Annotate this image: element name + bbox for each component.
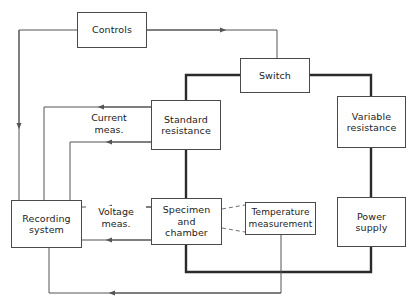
node-switch[interactable]: Switch [240,58,310,93]
node-controls-label: Controls [92,24,132,36]
node-controls[interactable]: Controls [77,12,147,48]
wire-specimen-to-temperature-bot [222,228,245,232]
wire-specimen-to-temperature-top [222,205,245,209]
node-recording-system-label: Recording system [22,213,70,236]
wire-specimen-to-power [186,245,371,272]
node-recording-system[interactable]: Recording system [11,200,82,248]
node-variable-resistance[interactable]: Variable resistance [337,96,406,148]
wire-switch-to-standard [186,75,240,100]
node-temperature-measurement-label: Temperature measurement [249,207,313,230]
wire-controls-to-switch [147,30,277,58]
wire-standard-current-lower [70,142,151,200]
wire-controls-to-recording [19,30,77,200]
wire-layer [0,0,416,307]
node-standard-resistance-label: Standard resistance [161,114,211,137]
node-switch-label: Switch [259,70,291,82]
node-standard-resistance[interactable]: Standard resistance [151,100,221,150]
node-specimen-and-chamber-label: Specimen and chamber [163,204,211,239]
node-power-supply-label: Power supply [356,211,388,234]
edge-label-current-meas: Current meas. [75,112,143,135]
wire-switch-to-variable [310,75,371,96]
edge-label-voltage-meas: Voltage meas. [86,206,146,229]
node-power-supply[interactable]: Power supply [337,197,406,247]
node-variable-resistance-label: Variable resistance [347,111,397,134]
node-temperature-measurement[interactable]: Temperature measurement [245,202,316,235]
block-diagram: Controls Switch Standard resistance Vari… [0,0,416,307]
node-specimen-and-chamber[interactable]: Specimen and chamber [151,198,222,245]
